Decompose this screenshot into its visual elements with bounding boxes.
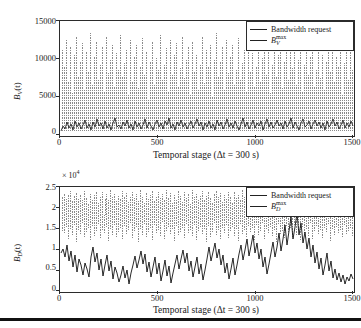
x-tick-bottom-500: 500 xyxy=(145,293,169,303)
y-axis-exponent-bottom: × 104 xyxy=(62,171,80,180)
legend-bottom-item-0: Bandwidth request xyxy=(250,190,349,201)
bottom-series-request xyxy=(61,213,353,284)
y-tick-top-0: 0 xyxy=(22,126,56,136)
y-axis-label-bottom: BD (t) xyxy=(12,244,22,262)
x-tick-top-1000: 1000 xyxy=(243,137,267,147)
y-tick-top-5000: 5000 xyxy=(22,90,56,100)
legend-top-item-1: BmaxV xyxy=(250,35,349,46)
y-axis-label-top-arg: (t) xyxy=(12,82,22,91)
legend-top: Bandwidth request BmaxV xyxy=(246,21,354,51)
tick-top-y3 xyxy=(56,20,59,21)
figure-root: BV (t) 15000 10000 5000 0 Bandwi xyxy=(0,0,361,328)
legend-line-swatch-solid xyxy=(250,29,267,30)
legend-bottom: Bandwidth request BmaxD xyxy=(246,187,354,217)
x-tick-bottom-1500: 1500 xyxy=(340,293,361,303)
x-axis-label-top: Temporal stage (Δt = 300 s) xyxy=(59,150,353,160)
y-axis-exponent-power: 4 xyxy=(77,169,80,175)
y-axis-label-bottom-symbol: BD xyxy=(12,252,22,262)
y-axis-label-bottom-arg: (t) xyxy=(12,244,22,253)
legend-top-item-0: Bandwidth request xyxy=(250,24,349,35)
top-series-request xyxy=(61,118,353,131)
tick-bottom-y5 xyxy=(56,186,59,187)
tick-bottom-y1 xyxy=(56,270,59,271)
x-tick-bottom-0: 0 xyxy=(47,293,71,303)
plot-area-bottom: Bandwidth request BmaxD xyxy=(59,186,355,293)
x-tick-top-0: 0 xyxy=(47,137,71,147)
y-tick-bottom-2: 2 xyxy=(24,202,56,212)
legend-bottom-bmax-sub: D xyxy=(276,204,280,214)
y-axis-label-top-symbol: BV xyxy=(12,91,22,100)
x-tick-bottom-1000: 1000 xyxy=(243,293,267,303)
y-tick-top-10000: 10000 xyxy=(22,53,56,63)
x-axis-label-bottom: Temporal stage (Δt = 300 s) xyxy=(59,305,353,315)
tick-bottom-y4 xyxy=(56,207,59,208)
y-tick-bottom-2p5: 2.5 xyxy=(24,182,56,192)
tick-bottom-y3 xyxy=(56,228,59,229)
y-tick-bottom-0p5: 0.5 xyxy=(24,262,56,272)
y-tick-top-15000: 15000 xyxy=(22,16,56,26)
x-tick-top-1500: 1500 xyxy=(340,137,361,147)
legend-bottom-item-1: BmaxD xyxy=(250,201,349,212)
legend-top-label-1: BmaxV xyxy=(271,36,276,46)
y-axis-exponent-base: × 10 xyxy=(62,171,77,180)
tick-top-y1 xyxy=(56,96,59,97)
legend-bottom-label-1: BmaxD xyxy=(271,202,276,212)
legend-line-swatch-bmax xyxy=(250,40,267,41)
bottom-rule xyxy=(0,318,361,321)
y-tick-bottom-0: 0 xyxy=(24,283,56,293)
y-axis-label-top: BV (t) xyxy=(12,82,22,100)
x-tick-top-500: 500 xyxy=(145,137,169,147)
legend-line-swatch-bmax xyxy=(250,206,267,207)
y-tick-bottom-1p5: 1.5 xyxy=(24,222,56,232)
tick-top-y2 xyxy=(56,58,59,59)
tick-bottom-y2 xyxy=(56,249,59,250)
y-tick-bottom-1: 1 xyxy=(24,242,56,252)
legend-line-swatch-solid xyxy=(250,195,267,196)
plot-area-top: Bandwidth request BmaxV xyxy=(59,20,355,137)
legend-top-bmax-sub: V xyxy=(276,38,280,48)
